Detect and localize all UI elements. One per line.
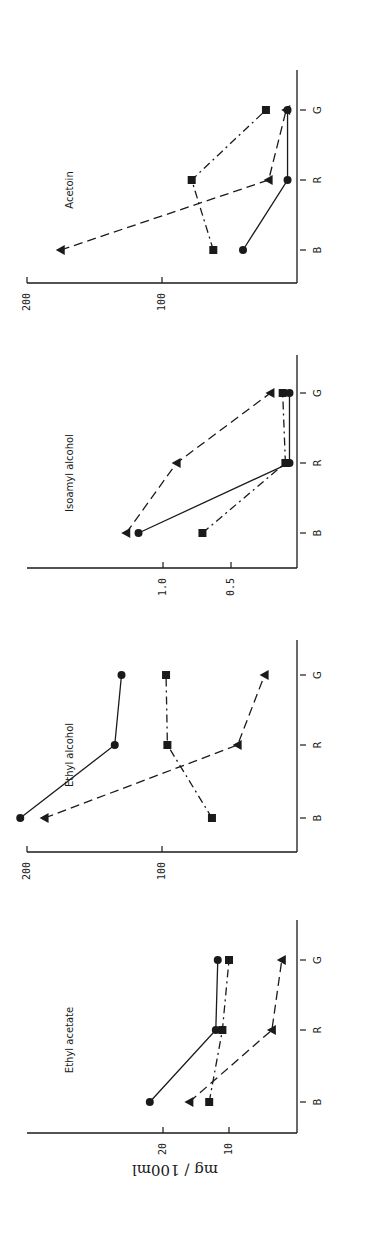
category-label: G — [312, 956, 323, 964]
panel-title: Isoamyl alcohol — [64, 434, 75, 512]
marker-triangle — [184, 1097, 193, 1107]
chart-canvas: 100200BRGAcetoin 0.51.0BRGIsoamyl alcoho… — [0, 0, 371, 1233]
category-label: R — [312, 176, 323, 183]
panel-ethyl-acetate: 1020BRGEthyl acetate — [27, 920, 323, 1155]
marker-square — [163, 741, 171, 749]
marker-circle — [285, 389, 293, 397]
marker-circle — [146, 1098, 154, 1106]
series-line-circle — [139, 393, 290, 533]
category-label: G — [312, 389, 323, 397]
series-line-square — [202, 393, 285, 533]
value-tick-label: 1.0 — [157, 578, 168, 596]
series-line-triangle — [45, 675, 265, 818]
marker-triangle — [172, 458, 181, 468]
marker-circle — [118, 671, 126, 679]
value-tick-label: 20 — [157, 1143, 168, 1155]
marker-square — [225, 956, 233, 964]
category-label: B — [312, 529, 323, 536]
marker-square — [281, 459, 289, 467]
marker-square — [218, 1026, 226, 1034]
chart-figure: 100200BRGAcetoin 0.51.0BRGIsoamyl alcoho… — [0, 0, 371, 1233]
series-line-triangle — [126, 393, 270, 533]
marker-square — [198, 529, 206, 537]
marker-circle — [284, 176, 292, 184]
category-label: G — [312, 106, 323, 114]
panel-ethyl-alcohol: 100200BRGEthyl alcohol — [16, 640, 323, 880]
category-label: R — [312, 1026, 323, 1033]
category-label: R — [312, 741, 323, 748]
marker-triangle — [40, 813, 49, 823]
value-tick-label: 0.5 — [225, 578, 236, 596]
marker-circle — [135, 529, 143, 537]
value-tick-label: 10 — [223, 1143, 234, 1155]
marker-triangle — [56, 245, 65, 255]
category-label: B — [312, 814, 323, 821]
marker-circle — [239, 246, 247, 254]
marker-square — [262, 106, 270, 114]
panel-title: Ethyl acetate — [64, 1007, 75, 1073]
panel-title: Acetoin — [64, 171, 75, 208]
series-line-square — [166, 675, 212, 818]
marker-triangle — [264, 175, 273, 185]
marker-triangle — [260, 670, 269, 680]
marker-circle — [16, 814, 24, 822]
marker-square — [208, 814, 216, 822]
category-label: B — [312, 246, 323, 253]
value-tick-label: 200 — [21, 862, 32, 880]
series-line-square — [192, 110, 266, 250]
value-tick-label: 200 — [21, 293, 32, 311]
marker-circle — [111, 741, 119, 749]
y-axis-label: mg / 100ml — [132, 1161, 218, 1179]
panel-isoamyl-alcohol: 0.51.0BRGIsoamyl alcohol — [27, 355, 323, 596]
marker-square — [205, 1098, 213, 1106]
marker-triangle — [121, 528, 130, 538]
value-tick-label: 100 — [156, 293, 167, 311]
series-line-triangle — [189, 960, 281, 1102]
marker-square — [162, 671, 170, 679]
category-label: G — [312, 671, 323, 679]
series-line-triangle — [61, 110, 286, 250]
category-label: R — [312, 459, 323, 466]
category-label: B — [312, 1098, 323, 1105]
marker-square — [188, 176, 196, 184]
series-line-circle — [150, 960, 218, 1102]
value-tick-label: 100 — [156, 862, 167, 880]
marker-circle — [214, 956, 222, 964]
panel-acetoin: 100200BRGAcetoin — [21, 70, 323, 311]
marker-square — [209, 246, 217, 254]
marker-triangle — [233, 740, 242, 750]
marker-square — [279, 389, 287, 397]
